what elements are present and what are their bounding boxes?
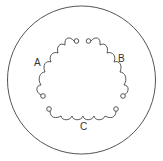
label-coil-c: C <box>80 122 87 132</box>
label-coil-b: B <box>118 54 125 64</box>
coil-c <box>47 107 119 120</box>
coil-a <box>37 38 79 98</box>
coil-b <box>86 38 128 98</box>
winding-diagram: A B C <box>0 0 163 161</box>
diagram-canvas <box>0 0 163 161</box>
label-coil-a: A <box>34 58 41 68</box>
